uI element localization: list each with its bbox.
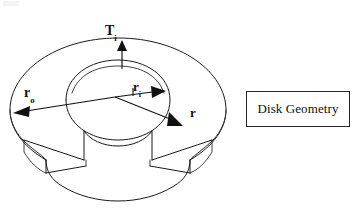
inner-hole-bottom-lobe: [84, 131, 152, 146]
inner-radius-label: ri: [133, 80, 141, 97]
radius-label: r: [190, 106, 196, 123]
outer-disk-top-face: [10, 38, 226, 160]
right-slot-outer-wall: [152, 140, 212, 160]
outer-radius-arrow-head: [13, 106, 30, 117]
right-slot-top-edge: [190, 139, 214, 160]
inner-temperature-arrow-head: [117, 40, 127, 51]
right-slot-floor: [150, 166, 190, 173]
left-slot-outer-wall: [24, 140, 84, 160]
radius-arrow-shaft: [115, 97, 170, 119]
outer-radius-arrow-shaft: [26, 97, 115, 111]
caption-box: Disk Geometry: [246, 91, 350, 127]
outer-radius-label: ro: [24, 86, 35, 102]
outer-disk-bottom-rim: [46, 160, 190, 201]
outer-disk-right-thickness-edge: [214, 110, 226, 139]
figure-page: ro ri r Ti Disk Geometry: [0, 0, 356, 212]
left-slot-floor: [46, 166, 86, 173]
inner-radius-arrow-head: [151, 86, 166, 98]
inner-temperature-label: Ti: [105, 24, 117, 40]
inner-hole-wall-arc: [72, 66, 164, 93]
inner-hole-top-edge: [66, 60, 170, 140]
left-slot-top-edge: [22, 139, 46, 160]
caption-text: Disk Geometry: [257, 101, 338, 117]
radius-arrow-head: [167, 112, 183, 126]
